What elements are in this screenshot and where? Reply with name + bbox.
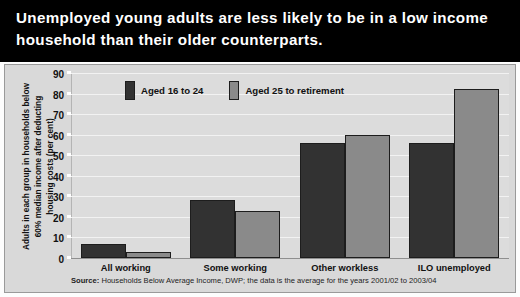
chart-panel: Adults in each group in households below… [4,64,516,293]
bar[interactable] [409,143,454,258]
bar-group: Some working [181,73,291,258]
x-axis-category-label: ILO unemployed [400,263,510,273]
legend-swatch [229,81,239,100]
y-axis-tick-label: 80 [53,89,64,100]
bar[interactable] [126,252,171,258]
x-axis-category-label: All working [71,263,181,273]
x-axis-category-label: Other workless [290,263,400,273]
y-axis-title: Adults in each group in households below… [15,74,61,259]
y-axis-title-text: Adults in each group in households below… [20,83,56,250]
bar-group: All working [71,73,181,258]
legend-item[interactable]: Aged 25 to retirement [229,81,344,100]
y-axis-tick-label: 90 [53,69,64,80]
source-text: Households Below Average Income, DWP; th… [101,276,436,285]
bar[interactable] [81,244,126,258]
bar-group: ILO unemployed [400,73,510,258]
gridline [71,258,509,259]
y-axis-tick-label: 70 [53,110,64,121]
legend-label: Aged 25 to retirement [245,85,344,96]
bar-group: Other workless [290,73,400,258]
bar[interactable] [190,200,235,258]
page-title: Unemployed young adults are less likely … [16,7,504,50]
source-label: Source: [71,276,99,285]
bar[interactable] [454,89,499,258]
chart-title-band: Unemployed young adults are less likely … [0,0,520,62]
plot-area: 0102030405060708090 All workingSome work… [71,74,509,259]
x-axis-category-label: Some working [181,263,291,273]
y-axis-tick-label: 40 [53,171,64,182]
chart-figure: Unemployed young adults are less likely … [0,0,520,297]
y-axis-tick-label: 60 [53,130,64,141]
y-axis-tick-label: 10 [53,233,64,244]
y-axis-title-line: 60% median income after deducting [32,83,44,250]
legend-item[interactable]: Aged 16 to 24 [125,81,203,100]
y-axis-tick-label: 0 [58,254,64,265]
y-axis-tick-label: 50 [53,151,64,162]
y-axis-title-line: Adults in each group in households below [20,83,32,250]
y-axis-tick-label: 20 [53,212,64,223]
y-axis-tick-label: 30 [53,192,64,203]
legend-swatch [125,81,135,100]
source-note: Source: Households Below Average Income,… [71,276,436,285]
bar[interactable] [300,143,345,258]
y-axis-title-line: housing costs (per cent) [44,83,56,250]
bar[interactable] [345,135,390,258]
bar[interactable] [235,211,280,258]
chart-legend: Aged 16 to 24Aged 25 to retirement [125,81,344,100]
legend-label: Aged 16 to 24 [141,85,203,96]
